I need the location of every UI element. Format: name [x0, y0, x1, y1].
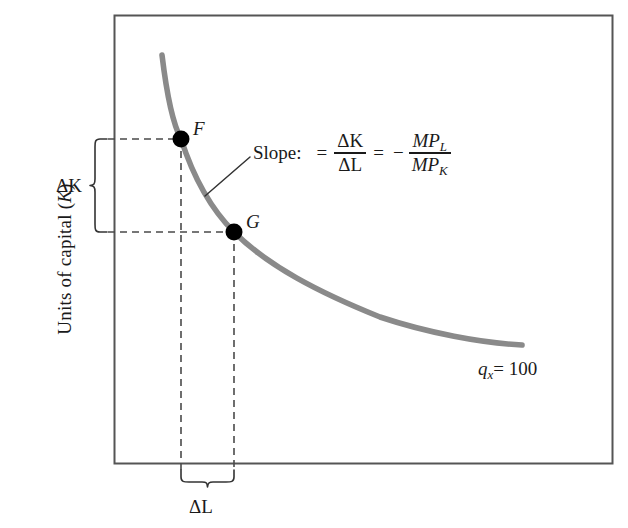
- slope-word: Slope:: [253, 142, 302, 164]
- mpl-subscript: L: [440, 138, 447, 153]
- y-axis-title: Units of capital (K): [54, 109, 76, 409]
- slope-equals-first: =: [317, 142, 328, 164]
- delta-l-brace: [181, 470, 234, 487]
- delta-k-label: ΔK: [56, 176, 82, 195]
- slope-minus-sign: −: [393, 142, 404, 164]
- fraction-denominator-mpk: MPK: [409, 154, 451, 176]
- isoquant-label: qx= 100: [478, 359, 537, 378]
- isoquant-curve: [162, 55, 522, 345]
- delta-l-label: ΔL: [189, 497, 213, 516]
- point-g-marker: [226, 224, 243, 241]
- fraction-denominator-delta-l: ΔL: [335, 154, 365, 176]
- point-g-label: G: [246, 212, 260, 231]
- plot-frame: [115, 16, 613, 464]
- delta-k-brace: [90, 139, 107, 232]
- point-f-marker: [173, 131, 190, 148]
- slope-leader-line: [205, 157, 250, 196]
- isoquant-q-symbol: q: [478, 358, 488, 379]
- isoquant-figure: Units of capital (K) ΔK ΔL F G qx= 100 S…: [0, 0, 628, 528]
- figure-canvas: [0, 0, 628, 528]
- point-f-label: F: [193, 119, 205, 138]
- fraction-numerator-mpl: MPL: [409, 131, 450, 153]
- mpl-base: MP: [412, 130, 439, 151]
- mpk-base: MP: [412, 154, 439, 175]
- mpk-subscript: K: [439, 162, 448, 177]
- fraction-mpl-mpk: MPL MPK: [409, 131, 451, 175]
- y-axis-title-prefix: Units of capital (: [54, 203, 75, 335]
- fraction-delta-k-delta-l: ΔK ΔL: [334, 131, 366, 175]
- slope-annotation: Slope: = ΔK ΔL = − MPL MPK: [253, 122, 451, 184]
- fraction-numerator-delta-k: ΔK: [334, 131, 366, 153]
- slope-equals-second: =: [373, 142, 384, 164]
- isoquant-value: = 100: [493, 358, 537, 379]
